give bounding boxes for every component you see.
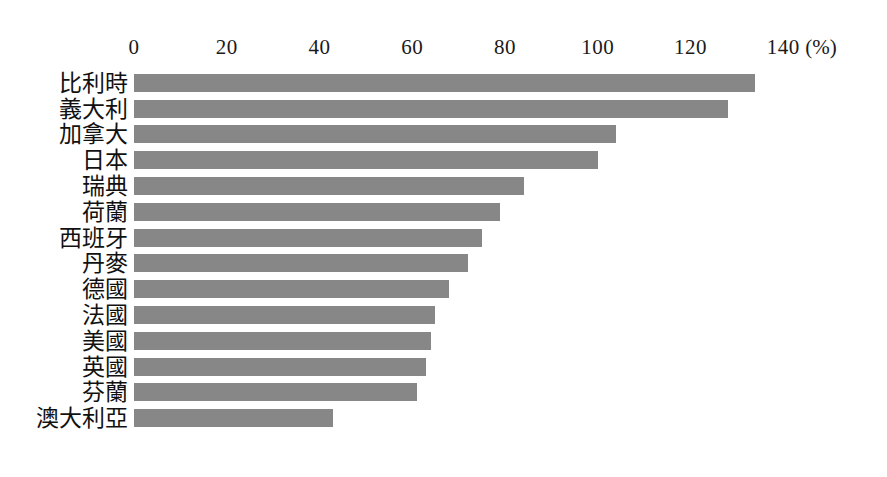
category-label: 澳大利亞: [36, 406, 128, 431]
category-label: 日本: [82, 148, 128, 173]
category-label: 法國: [82, 303, 128, 328]
bar-row: 瑞典: [0, 173, 887, 199]
category-label: 加拿大: [59, 122, 128, 147]
bar: [134, 177, 524, 195]
bar-row: 義大利: [0, 96, 887, 122]
x-tick-label: 20: [216, 36, 238, 59]
bar: [134, 203, 500, 221]
x-axis-unit-label: (%): [805, 36, 836, 59]
bar-row: 英國: [0, 354, 887, 380]
bar-row: 美國: [0, 328, 887, 354]
x-tick-label: 40: [308, 36, 330, 59]
bar: [134, 229, 482, 247]
category-label: 德國: [82, 277, 128, 302]
bar: [134, 332, 431, 350]
category-label: 瑞典: [82, 174, 128, 199]
category-label: 荷蘭: [82, 199, 128, 224]
bar-chart: 020406080100120140(%) 比利時義大利加拿大日本瑞典荷蘭西班牙…: [0, 0, 887, 477]
x-tick-label: 140: [767, 36, 800, 59]
bar: [134, 100, 728, 118]
bar: [134, 306, 435, 324]
bar-row: 澳大利亞: [0, 405, 887, 431]
plot-area: 比利時義大利加拿大日本瑞典荷蘭西班牙丹麥德國法國美國英國芬蘭澳大利亞: [0, 70, 887, 455]
bar-row: 德國: [0, 276, 887, 302]
x-tick-label: 60: [401, 36, 423, 59]
bar: [134, 151, 598, 169]
bar-row: 丹麥: [0, 251, 887, 277]
x-tick-label: 120: [674, 36, 707, 59]
bar-row: 加拿大: [0, 122, 887, 148]
x-tick-label: 0: [129, 36, 140, 59]
category-label: 芬蘭: [82, 380, 128, 405]
bar-row: 比利時: [0, 70, 887, 96]
bar: [134, 254, 468, 272]
category-label: 義大利: [59, 96, 128, 121]
bar-row: 西班牙: [0, 225, 887, 251]
bar: [134, 125, 616, 143]
bar-row: 法國: [0, 302, 887, 328]
bar: [134, 383, 417, 401]
bar: [134, 74, 755, 92]
category-label: 西班牙: [59, 225, 128, 250]
bar-row: 荷蘭: [0, 199, 887, 225]
x-axis: 020406080100120140(%): [0, 0, 887, 70]
bar: [134, 280, 449, 298]
bar: [134, 358, 426, 376]
category-label: 英國: [82, 354, 128, 379]
bar-row: 芬蘭: [0, 380, 887, 406]
category-label: 丹麥: [82, 251, 128, 276]
x-tick-label: 80: [494, 36, 516, 59]
x-tick-label: 100: [581, 36, 614, 59]
bar-row: 日本: [0, 147, 887, 173]
category-label: 美國: [82, 328, 128, 353]
category-label: 比利時: [59, 70, 128, 95]
bar: [134, 409, 333, 427]
